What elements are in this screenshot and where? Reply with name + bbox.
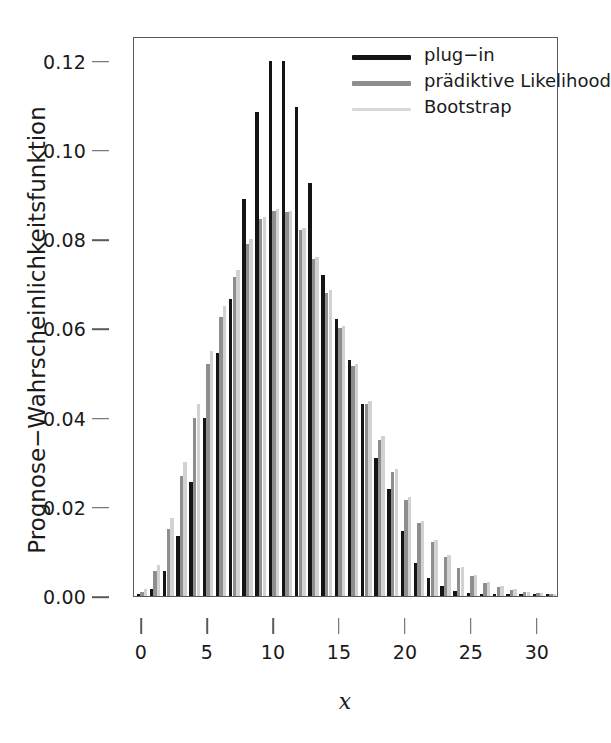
bar [183, 462, 186, 596]
legend-item-label: plug−in [424, 44, 495, 65]
bar [342, 326, 345, 596]
bar [540, 593, 543, 596]
x-tick-label: 30 [525, 641, 549, 663]
bar [368, 401, 371, 596]
bar [315, 257, 318, 596]
bar [408, 497, 411, 596]
bar [249, 239, 252, 596]
y-tick-mark [92, 507, 109, 509]
chart-legend: plug−in prädiktive Likelihood Bootstrap [352, 44, 558, 122]
bar [461, 567, 464, 596]
y-tick-label: 0.00 [43, 586, 86, 608]
x-tick-label: 10 [261, 641, 285, 663]
x-tick-label: 20 [393, 641, 417, 663]
y-tick-label: 0.12 [43, 51, 86, 73]
y-tick-mark [92, 150, 109, 152]
bar [527, 592, 530, 596]
bar [157, 565, 160, 596]
bar [329, 290, 332, 596]
x-tick-mark [140, 618, 142, 634]
x-tick-label: 0 [135, 641, 147, 663]
legend-swatch-line-icon [352, 108, 411, 111]
page-caption [6, 722, 599, 738]
bar [421, 521, 424, 596]
bar [302, 228, 305, 596]
legend-swatch-line-icon [352, 81, 411, 86]
legend-item-praediktive-likelihood: prädiktive Likelihood [352, 70, 558, 96]
y-tick-label: 0.08 [43, 229, 86, 251]
bar [487, 582, 490, 596]
bar [197, 404, 200, 596]
bar [513, 589, 516, 596]
bar [434, 540, 437, 596]
bar [447, 555, 450, 596]
legend-item-label: Bootstrap [424, 96, 512, 117]
y-tick-label: 0.02 [43, 497, 86, 519]
bar [210, 351, 213, 596]
y-tick-mark [92, 239, 109, 241]
y-tick-mark [92, 418, 109, 420]
x-tick-mark [536, 618, 538, 634]
bar [355, 364, 358, 596]
y-tick-mark [92, 328, 109, 330]
bar [500, 586, 503, 596]
y-axis: Prognose−Wahrscheinlichkeitsfunktion 0.0… [0, 0, 133, 743]
legend-item-plug-in: plug−in [352, 44, 558, 70]
bar [381, 436, 384, 596]
x-tick-mark [206, 618, 208, 634]
bar [223, 306, 226, 596]
x-tick-mark [404, 618, 406, 634]
legend-swatch-line-icon [352, 55, 411, 60]
legend-item-bootstrap: Bootstrap [352, 96, 558, 122]
y-tick-label: 0.06 [43, 318, 86, 340]
x-tick-label: 5 [201, 641, 213, 663]
bar [236, 270, 239, 596]
bar [289, 211, 292, 596]
y-tick-label: 0.04 [43, 408, 86, 430]
x-tick-label: 25 [459, 641, 483, 663]
y-tick-mark [92, 596, 109, 598]
x-tick-mark [338, 618, 340, 634]
bar [474, 575, 477, 596]
x-axis-title: x [339, 689, 351, 714]
bar [276, 209, 279, 596]
x-tick-label: 15 [327, 641, 351, 663]
bar [144, 589, 147, 596]
bar [553, 594, 556, 596]
legend-item-label: prädiktive Likelihood [424, 70, 611, 91]
bar [170, 518, 173, 596]
bar [395, 469, 398, 596]
y-tick-mark [92, 61, 109, 63]
x-tick-mark [272, 618, 274, 634]
y-tick-label: 0.10 [43, 140, 86, 162]
x-tick-mark [470, 618, 472, 634]
bar [263, 217, 266, 596]
